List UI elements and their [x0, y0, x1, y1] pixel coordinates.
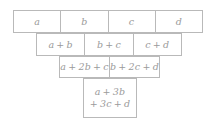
pyramid-cell-total-line-1: a + 3b	[95, 86, 126, 98]
pyramid-row-3: a + 2b + c b + 2c + d	[59, 56, 161, 78]
pyramid-cell-a-2b-c: a + 2b + c	[59, 56, 110, 78]
addition-pyramid: a b c d a + b b + c c + d a + 2b + c b +…	[0, 0, 219, 122]
pyramid-cell-b: b	[60, 10, 108, 33]
pyramid-cell-a: a	[13, 10, 61, 33]
pyramid-row-2: a + b b + c c + d	[36, 33, 184, 56]
pyramid-row-1: a b c d	[13, 10, 206, 33]
pyramid-cell-c: c	[108, 10, 156, 33]
pyramid-cell-b-2c-d: b + 2c + d	[109, 56, 160, 78]
pyramid-cell-b-plus-c: b + c	[84, 33, 133, 56]
diagram-canvas: a b c d a + b b + c c + d a + 2b + c b +…	[0, 0, 219, 122]
pyramid-cell-a-plus-b: a + b	[36, 33, 85, 56]
pyramid-cell-d: d	[155, 10, 203, 33]
pyramid-cell-c-plus-d: c + d	[133, 33, 182, 56]
pyramid-row-4: a + 3b + 3c + d	[83, 78, 137, 118]
pyramid-cell-total-line-2: + 3c + d	[90, 98, 131, 110]
pyramid-cell-total: a + 3b + 3c + d	[83, 78, 137, 118]
